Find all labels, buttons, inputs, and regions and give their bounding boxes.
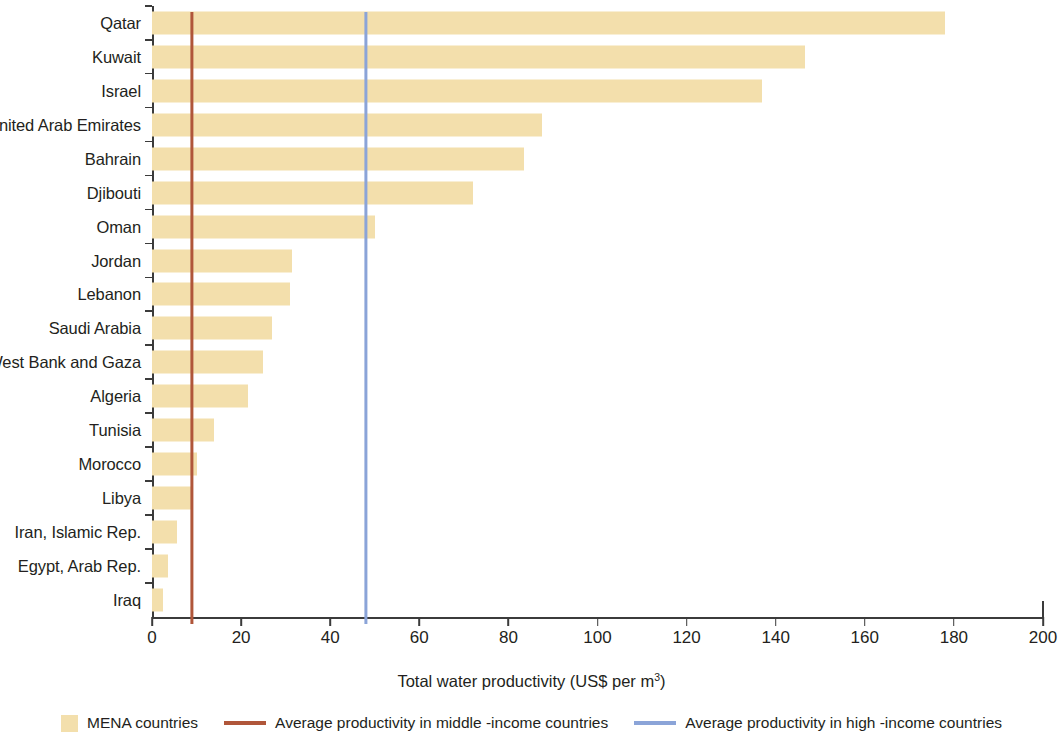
bar (152, 588, 163, 611)
bar-rows: QatarKuwaitIsraelUnited Arab EmiratesBah… (152, 6, 1043, 617)
y-axis-tick (145, 412, 152, 414)
legend-swatch-icon (61, 715, 78, 732)
legend-item: MENA countries (61, 714, 198, 732)
category-label: Morocco (78, 455, 141, 474)
bar-row: Saudi Arabia (152, 311, 1043, 345)
y-axis-tick (145, 514, 152, 516)
category-label: Tunisia (89, 421, 141, 440)
bar-row: Qatar (152, 6, 1043, 40)
bar (152, 249, 292, 272)
bar-row: Morocco (152, 447, 1043, 481)
bar-row: Djibouti (152, 176, 1043, 210)
y-axis-tick (145, 446, 152, 448)
bar (152, 79, 762, 102)
category-label: Libya (102, 489, 141, 508)
bar (152, 351, 263, 374)
category-label: Bahrain (85, 149, 141, 168)
chart-legend: MENA countriesAverage productivity in mi… (0, 714, 1063, 732)
y-axis-tick (145, 277, 152, 279)
bar (152, 11, 945, 34)
x-axis-tick (1042, 617, 1044, 626)
x-axis-tick-label: 20 (232, 628, 251, 648)
y-axis-tick (145, 310, 152, 312)
bar-row: Kuwait (152, 40, 1043, 74)
reference-line (190, 12, 193, 624)
y-axis-tick (145, 209, 152, 211)
category-label: Oman (96, 217, 141, 236)
category-label: West Bank and Gaza (0, 353, 141, 372)
bar (152, 554, 168, 577)
legend-item: Average productivity in high -income cou… (634, 714, 1002, 732)
bar (152, 487, 192, 510)
legend-item: Average productivity in middle -income c… (224, 714, 608, 732)
y-axis-tick (145, 39, 152, 41)
category-label: Qatar (100, 13, 141, 32)
x-axis-tick-label: 0 (147, 628, 156, 648)
x-axis-tick-label: 60 (410, 628, 429, 648)
y-axis-tick (145, 5, 152, 7)
bar-row: Egypt, Arab Rep. (152, 549, 1043, 583)
x-axis-tick (508, 617, 510, 626)
y-axis-tick (145, 344, 152, 346)
bar-row: Tunisia (152, 413, 1043, 447)
bar-row: Bahrain (152, 142, 1043, 176)
category-label: Kuwait (92, 47, 141, 66)
bar (152, 521, 177, 544)
y-axis-tick (145, 73, 152, 75)
x-axis-tick-label: 180 (940, 628, 968, 648)
x-axis-tick-label: 80 (499, 628, 518, 648)
y-axis-tick (145, 175, 152, 177)
category-label: United Arab Emirates (0, 115, 141, 134)
legend-label: Average productivity in high -income cou… (685, 714, 1002, 732)
x-axis-title-close: ) (660, 672, 666, 690)
x-axis-title-main: Total water productivity (US$ per m (397, 672, 654, 690)
x-axis-title: Total water productivity (US$ per m3) (0, 672, 1063, 691)
category-label: Lebanon (77, 285, 141, 304)
bar-row: Algeria (152, 379, 1043, 413)
y-axis-tick (145, 548, 152, 550)
y-axis-tick (145, 243, 152, 245)
bar (152, 419, 214, 442)
category-label: Algeria (90, 387, 141, 406)
legend-label: MENA countries (87, 714, 198, 732)
bar (152, 215, 375, 238)
category-label: Saudi Arabia (49, 319, 141, 338)
bar (152, 113, 542, 136)
bar (152, 317, 272, 340)
category-label: Iran, Islamic Rep. (14, 523, 141, 542)
y-axis-tick (145, 107, 152, 109)
y-axis-tick (145, 582, 152, 584)
category-label: Jordan (91, 251, 141, 270)
category-label: Israel (101, 81, 141, 100)
x-axis-tick (864, 617, 866, 626)
x-axis-tick (418, 617, 420, 626)
bar-row: Lebanon (152, 278, 1043, 312)
x-axis-tick-label: 100 (583, 628, 611, 648)
category-label: Djibouti (87, 183, 141, 202)
x-axis-tick-label: 140 (762, 628, 790, 648)
x-axis-tick (775, 617, 777, 626)
x-axis-tick (597, 617, 599, 626)
bar (152, 385, 248, 408)
bar-row: United Arab Emirates (152, 108, 1043, 142)
x-axis-tick-label: 160 (851, 628, 879, 648)
plot-area: QatarKuwaitIsraelUnited Arab EmiratesBah… (152, 6, 1043, 617)
bar (152, 45, 805, 68)
x-axis-tick (329, 617, 331, 626)
bar-row: Jordan (152, 244, 1043, 278)
chart-container: QatarKuwaitIsraelUnited Arab EmiratesBah… (0, 0, 1063, 740)
legend-line-icon (224, 721, 266, 724)
bar-row: Israel (152, 74, 1043, 108)
y-axis-tick (145, 480, 152, 482)
category-label: Egypt, Arab Rep. (18, 556, 141, 575)
x-axis-tick-label: 40 (321, 628, 340, 648)
x-axis-tick (151, 617, 153, 626)
reference-line (364, 12, 367, 624)
y-axis-tick (145, 378, 152, 380)
bar-row: Oman (152, 210, 1043, 244)
bar (152, 283, 290, 306)
x-axis-tick-label: 120 (672, 628, 700, 648)
legend-label: Average productivity in middle -income c… (275, 714, 608, 732)
x-axis-tick (240, 617, 242, 626)
bar-row: Iraq (152, 583, 1043, 617)
